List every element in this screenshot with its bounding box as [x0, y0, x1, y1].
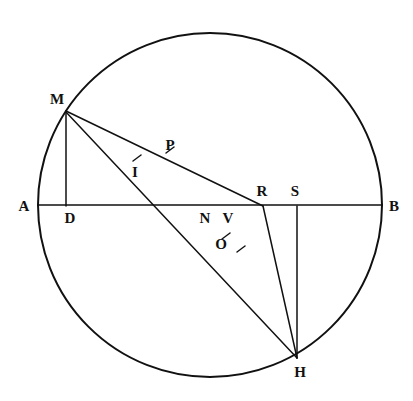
- point-label-O: O: [215, 237, 227, 252]
- point-label-M: M: [50, 92, 64, 107]
- point-label-S: S: [291, 184, 299, 199]
- segment-RH: [263, 206, 297, 358]
- tick-mark-I: [133, 155, 141, 161]
- point-label-H: H: [294, 365, 306, 380]
- point-label-V: V: [223, 211, 234, 226]
- geometry-svg: [0, 0, 413, 401]
- point-label-D: D: [65, 211, 76, 226]
- diagram-canvas: A B M D N V O I P R S H: [0, 0, 413, 401]
- tick-mark-O: [237, 246, 245, 252]
- point-label-P: P: [165, 138, 174, 153]
- point-label-A: A: [19, 199, 30, 214]
- segment-MOH: [66, 112, 297, 358]
- point-label-I: I: [132, 165, 138, 180]
- segment-MR: [66, 111, 263, 206]
- point-label-R: R: [257, 184, 268, 199]
- point-label-N: N: [200, 211, 211, 226]
- point-label-B: B: [389, 199, 399, 214]
